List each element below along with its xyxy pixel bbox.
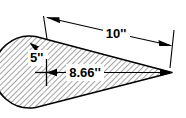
dimension-label-center-to-tip: 8.66'' [69,65,100,80]
dimension-label-arc-radius: 5'' [30,50,43,65]
dimension-label-overall-length: 10'' [106,26,127,41]
extension-line-right [170,30,174,68]
technical-drawing-canvas: 10'' 8.66'' 5'' [0,0,186,118]
teardrop-figure: 10'' 8.66'' 5'' [0,0,186,118]
arrowhead-ctt-right [160,69,172,76]
extension-line-left [44,16,48,39]
arrowhead-right [159,40,173,46]
